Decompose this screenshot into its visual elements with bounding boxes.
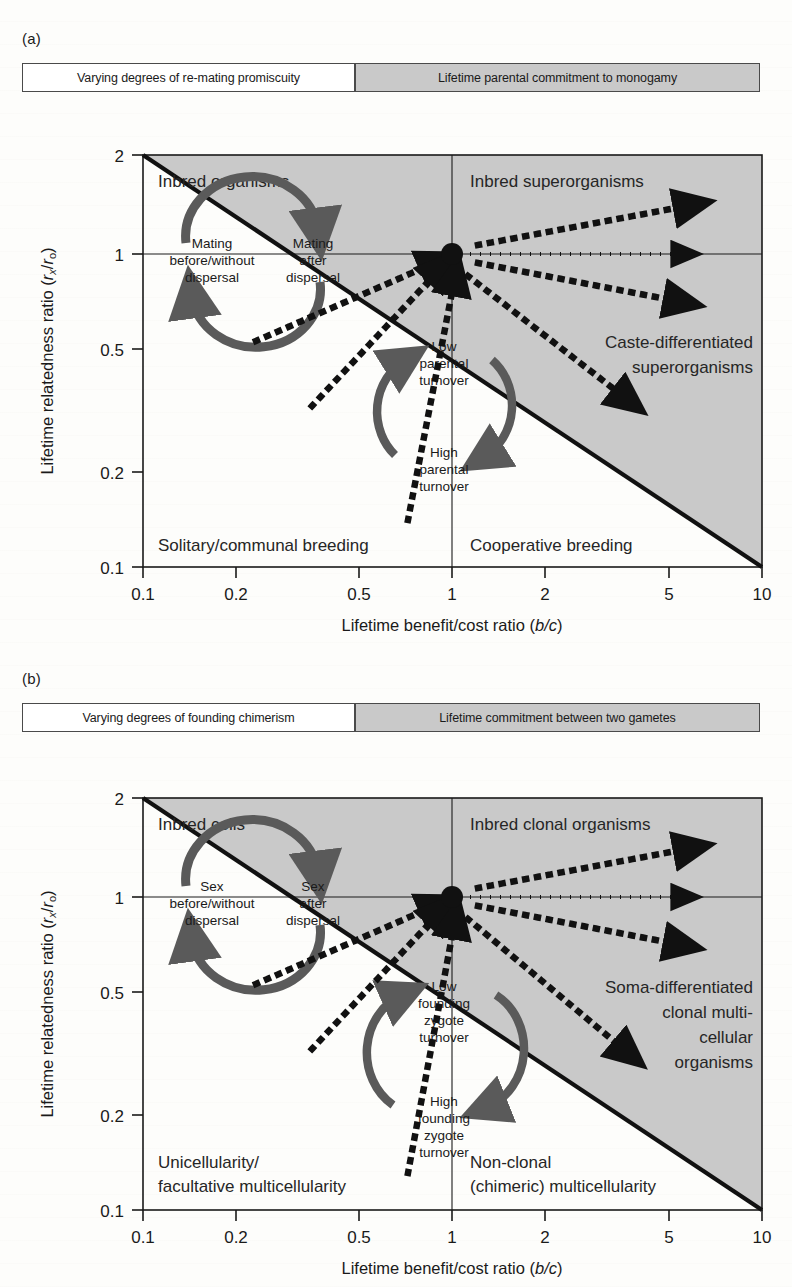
panel-b-y-axis-title-plain: Lifetime relatedness ratio ( (38, 923, 56, 1118)
panel-b-ytick-4: 2 (115, 790, 124, 809)
panel-b-xtick-1: 0.2 (224, 1228, 248, 1247)
panel-b-svg: 0.1 0.2 0.5 1 2 5 10 0.1 0.2 0.5 1 2 (0, 643, 792, 1287)
panel-a-quadrant-top-right: Inbred superorganisms (470, 172, 644, 191)
panel-b-cycle1-left-line0: Sex (200, 879, 224, 894)
panel-b-quadrant-bottom-right-line0: Non-clonal (470, 1153, 551, 1172)
panel-b-xtick-4: 2 (540, 1228, 549, 1247)
panel-b-cycle1-left-line1: before/without (170, 896, 255, 911)
figure-page: (a) Varying degrees of re-mating promisc… (0, 0, 792, 1287)
panel-a-cycle2-bottom-line1: parental (420, 462, 469, 477)
panel-a-x-axis-title-plain: Lifetime benefit/cost ratio ( (341, 616, 535, 634)
panel-b-y-axis-title: Lifetime relatedness ratio (rx/ro) (38, 890, 58, 1117)
panel-b-xtick-0: 0.1 (131, 1228, 155, 1247)
panel-a-x-axis-title-italic: b/c (535, 616, 558, 634)
panel-b-ytick-3: 1 (115, 889, 124, 908)
panel-a-ytick-1: 0.2 (100, 464, 124, 483)
panel-b-ytick-1: 0.2 (100, 1107, 124, 1126)
panel-a-x-ticks (143, 567, 762, 578)
panel-b-y-ticks (132, 798, 143, 1210)
panel-b-zygote-cycle-left-arc (367, 995, 402, 1105)
panel-b-cycle2-bottom-line0: High (430, 1094, 458, 1109)
panel-b-vertex-point (441, 886, 463, 908)
panel-a-vertex-point (441, 243, 463, 265)
panel-b-cycle2-bottom-line1: founding (418, 1111, 470, 1126)
panel-b-xtick-2: 0.5 (347, 1228, 371, 1247)
panel-a-x-axis-title: Lifetime benefit/cost ratio (b/c) (341, 616, 562, 634)
panel-b-cycle2-bottom-line2: zygote (424, 1128, 464, 1143)
panel-a-cycle1-left-line1: before/without (170, 253, 255, 268)
panel-a-y-axis-title: Lifetime relatedness ratio (rx/ro) (38, 247, 58, 474)
panel-b-cycle1-right-line1: after (299, 896, 327, 911)
panel-a-turnover-cycle-left-arc (377, 361, 404, 455)
panel-b-x-axis-title-plain: Lifetime benefit/cost ratio ( (341, 1259, 535, 1277)
panel-b-x-axis-title-italic: b/c (535, 1259, 558, 1277)
panel-a-ytick-2: 0.5 (100, 341, 124, 360)
panel-b-ytick-0: 0.1 (100, 1202, 124, 1221)
panel-a-xtick-3: 1 (447, 585, 456, 604)
panel-b-cycle2-bottom-line3: turnover (419, 1145, 469, 1160)
panel-b-annotation-line-0: Soma-differentiated (605, 978, 753, 997)
panel-b-annotation-line-1: clonal multi- (662, 1003, 753, 1022)
panel-b-xtick-5: 5 (664, 1228, 673, 1247)
panel-a-x-axis-title-tail: ) (557, 616, 563, 634)
panel-b-ytick-2: 0.5 (100, 984, 124, 1003)
panel-a-xtick-6: 10 (753, 585, 772, 604)
panel-a-y-axis-title-plain: Lifetime relatedness ratio ( (38, 280, 56, 475)
panel-a-svg: 0.1 0.2 0.5 1 2 5 10 0.1 0.2 0.5 1 (0, 0, 792, 643)
panel-a-plot: 0.1 0.2 0.5 1 2 5 10 0.1 0.2 0.5 1 (0, 0, 792, 643)
panel-a-cycle1-left-line2: dispersal (185, 270, 239, 285)
panel-a-xtick-1: 0.2 (224, 585, 248, 604)
panel-a-cycle2-bottom-line0: High (430, 445, 458, 460)
panel-a-annotation-line-0: Caste-differentiated (605, 333, 753, 352)
panel-a-y-ticks (132, 155, 143, 567)
panel-a-cycle1-right-line2: dispersal (286, 270, 340, 285)
panel-b-xtick-3: 1 (447, 1228, 456, 1247)
panel-a-cycle1-left-line0: Mating (192, 236, 233, 251)
panel-b-cycle1-right-line2: dispersal (286, 913, 340, 928)
panel-a-quadrant-bottom-left: Solitary/communal breeding (158, 536, 369, 555)
panel-a-quadrant-bottom-right: Cooperative breeding (470, 536, 633, 555)
panel-b-cycle2-top-line3: turnover (419, 1030, 469, 1045)
panel-a-xtick-5: 5 (664, 585, 673, 604)
panel-a-y-axis-title-tail: ) (38, 247, 56, 253)
panel-a-xtick-4: 2 (540, 585, 549, 604)
panel-a-ytick-0: 0.1 (100, 559, 124, 578)
panel-b-annotation-line-3: organisms (675, 1053, 753, 1072)
panel-b-x-axis-title: Lifetime benefit/cost ratio (b/c) (341, 1259, 562, 1277)
panel-a-ytick-4: 2 (115, 147, 124, 166)
panel-a-turnover-cycle: Low parental turnover High parental turn… (377, 339, 512, 494)
panel-a-cycle2-bottom-line2: turnover (419, 479, 469, 494)
panel-b-cycle1-left-line2: dispersal (185, 913, 239, 928)
panel-b-quadrant-bottom-left-line0: Unicellularity/ (158, 1153, 259, 1172)
panel-a-annotation-line-1: superorganisms (632, 358, 753, 377)
panel-b-x-axis-title-tail: ) (557, 1259, 563, 1277)
panel-a-cycle2-top-line1: parental (420, 356, 469, 371)
panel-b-quadrant-bottom-right-line1: (chimeric) multicellularity (470, 1177, 657, 1196)
panel-b-quadrant-top-right: Inbred clonal organisms (470, 815, 650, 834)
panel-b-cycle2-top-line1: founding (418, 996, 470, 1011)
panel-a-xtick-0: 0.1 (131, 585, 155, 604)
panel-a-ytick-3: 1 (115, 246, 124, 265)
panel-a-cycle1-right-line0: Mating (293, 236, 334, 251)
panel-b-plot: 0.1 0.2 0.5 1 2 5 10 0.1 0.2 0.5 1 2 (0, 643, 792, 1286)
panel-a-cycle2-top-line2: turnover (419, 373, 469, 388)
panel-b-xtick-6: 10 (753, 1228, 772, 1247)
panel-b-cycle1-right-line0: Sex (301, 879, 325, 894)
panel-a-cycle1-right-line1: after (299, 253, 327, 268)
panel-a-xtick-2: 0.5 (347, 585, 371, 604)
panel-b-x-ticks (143, 1210, 762, 1221)
panel-b-annotation-line-2: cellular (699, 1028, 753, 1047)
panel-b-cycle2-top-line2: zygote (424, 1013, 464, 1028)
panel-b-y-axis-title-tail: ) (38, 890, 56, 896)
panel-b-quadrant-bottom-left-line1: facultative multicellularity (158, 1177, 347, 1196)
